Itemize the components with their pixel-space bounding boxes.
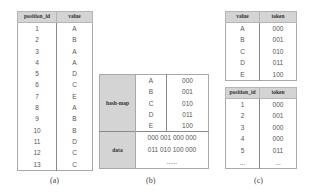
table-row: D011 (226, 57, 297, 69)
cell-position-id: 11 (18, 136, 57, 147)
table-row: A000 (226, 22, 297, 34)
cell-token: 000 (260, 22, 297, 34)
cell-value: A (57, 102, 93, 113)
cell-position-id: 4 (226, 133, 260, 145)
hash-map-data-table: hash-map A 000 B 001 C 010 D 011 E 100 d… (99, 74, 209, 169)
table-row: B001 (226, 34, 297, 46)
cell-value: C (57, 159, 93, 171)
table-row: 4000 (226, 133, 297, 145)
cell-value: D (57, 68, 93, 79)
cell-token: 100 (167, 120, 209, 132)
cell-value: C (57, 79, 93, 90)
cell-token: 000 (260, 122, 297, 134)
cell-position-id: 3 (226, 122, 260, 134)
caption-b: (b) (146, 176, 155, 185)
column-header-position-id: position_id (18, 12, 57, 23)
table-row: 10B (18, 125, 93, 136)
cell-token: 001 (260, 34, 297, 46)
cell-token: 000 (260, 133, 297, 145)
table-row: 3000 (226, 122, 297, 134)
table-row: E100 (226, 69, 297, 81)
table-row: 2001 (226, 110, 297, 122)
cell-token: 011 (260, 145, 297, 157)
table-row: 1A (18, 23, 93, 35)
hash-map-label: hash-map (100, 75, 136, 132)
cell-position-id: 5 (226, 145, 260, 157)
table-row: 13C (18, 159, 93, 171)
cell-token: 011 (167, 109, 209, 120)
table-row: 8A (18, 102, 93, 113)
cell-position-id: 8 (18, 102, 57, 113)
column-header-token: token (260, 88, 297, 99)
table-row: hash-map A 000 (100, 75, 209, 87)
table-row: 4A (18, 57, 93, 68)
table-header-row: position_id token (226, 88, 297, 99)
cell-value: A (57, 23, 93, 35)
cell-value: A (136, 75, 167, 87)
cell-value: E (136, 120, 167, 132)
data-line-ellipsis: ...... (136, 156, 209, 169)
cell-position-id: 2 (226, 110, 260, 122)
cell-position-id: 5 (18, 68, 57, 79)
position-token-table: position_id token 1000 2001 3000 4000 50… (225, 87, 297, 169)
cell-token: 010 (260, 46, 297, 58)
value-token-table: value token A000 B001 C010 D011 E100 (225, 11, 297, 81)
cell-value: E (57, 91, 93, 102)
cell-position-id: 2 (18, 34, 57, 45)
table-row: 12C (18, 147, 93, 158)
cell-position-id: 13 (18, 159, 57, 171)
cell-value: D (57, 136, 93, 147)
table-row: 9B (18, 113, 93, 124)
cell-token: 001 (167, 86, 209, 97)
column-header-value: value (226, 12, 260, 23)
caption-a: (a) (50, 176, 59, 185)
cell-token: 011 (260, 57, 297, 69)
table-row: 2B (18, 34, 93, 45)
table-row: 5011 (226, 145, 297, 157)
cell-position-id-ellipsis: ... (226, 157, 260, 169)
column-header-token: token (260, 12, 297, 23)
cell-value: B (57, 125, 93, 136)
table-row: 5D (18, 68, 93, 79)
caption-c: (c) (254, 176, 263, 185)
cell-value: C (57, 147, 93, 158)
table-row: 3A (18, 46, 93, 57)
cell-position-id: 4 (18, 57, 57, 68)
cell-position-id: 12 (18, 147, 57, 158)
cell-value: B (136, 86, 167, 97)
cell-value: B (226, 34, 260, 46)
cell-value: B (57, 34, 93, 45)
table-row: C010 (226, 46, 297, 58)
cell-token: 010 (167, 98, 209, 109)
cell-value: C (226, 46, 260, 58)
table-row: 7E (18, 91, 93, 102)
table-row: 6C (18, 79, 93, 90)
cell-value: A (57, 57, 93, 68)
cell-position-id: 10 (18, 125, 57, 136)
cell-position-id: 1 (18, 23, 57, 35)
data-label: data (100, 132, 136, 169)
table-row: data 000 001 000 000 (100, 132, 209, 145)
cell-value: D (136, 109, 167, 120)
cell-value: A (57, 46, 93, 57)
cell-value: B (57, 113, 93, 124)
cell-token: 001 (260, 110, 297, 122)
data-line: 011 010 100 000 (136, 144, 209, 156)
table-row: 1000 (226, 98, 297, 110)
cell-position-id: 3 (18, 46, 57, 57)
cell-position-id: 9 (18, 113, 57, 124)
table-header-row: position_id value (18, 12, 93, 23)
table-row: ...... (226, 157, 297, 169)
column-header-value: value (57, 12, 93, 23)
cell-position-id: 7 (18, 91, 57, 102)
cell-token-ellipsis: ... (260, 157, 297, 169)
cell-token: 100 (260, 69, 297, 81)
column-header-position-id: position_id (226, 88, 260, 99)
cell-position-id: 6 (18, 79, 57, 90)
position-value-table: position_id value 1A 2B 3A 4A 5D 6C 7E 8… (17, 11, 93, 171)
table-header-row: value token (226, 12, 297, 23)
cell-value: E (226, 69, 260, 81)
cell-value: C (136, 98, 167, 109)
cell-token: 000 (260, 98, 297, 110)
table-row: 11D (18, 136, 93, 147)
